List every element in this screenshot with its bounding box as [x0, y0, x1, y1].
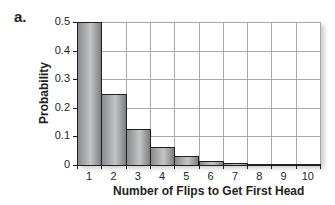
x-tick-mark [199, 165, 200, 169]
x-tick-label: 3 [126, 170, 150, 182]
y-axis [77, 22, 78, 166]
gridline-vertical [199, 22, 200, 165]
x-tick-mark [174, 165, 175, 169]
bar-3 [126, 129, 151, 165]
y-tick-label: 0 [40, 158, 70, 170]
x-tick-label: 8 [247, 170, 271, 182]
x-tick-mark [101, 165, 102, 169]
x-tick-label: 6 [199, 170, 223, 182]
y-tick-mark [73, 79, 78, 80]
y-tick-label: 0.1 [40, 129, 70, 141]
x-tick-mark [271, 165, 272, 169]
x-tick-label: 4 [150, 170, 174, 182]
bar-1 [77, 22, 102, 165]
gridline-vertical [223, 22, 224, 165]
x-tick-label: 5 [174, 170, 198, 182]
plot-area [77, 22, 320, 165]
bar-2 [101, 94, 126, 166]
x-tick-mark [296, 165, 297, 169]
x-tick-label: 9 [272, 170, 296, 182]
y-tick-mark [73, 51, 78, 52]
gridline-vertical [247, 22, 248, 165]
x-tick-mark [126, 165, 127, 169]
y-tick-label: 0.4 [40, 44, 70, 56]
y-tick-mark [73, 22, 78, 23]
x-tick-label: 1 [77, 170, 101, 182]
x-tick-mark [150, 165, 151, 169]
bar-4 [150, 147, 175, 165]
x-tick-label: 10 [296, 170, 320, 182]
gridline-vertical [271, 22, 272, 165]
y-axis-title: Probability [37, 62, 51, 124]
y-tick-mark [73, 136, 78, 137]
y-tick-mark [73, 108, 78, 109]
x-axis-title: Number of Flips to Get First Head [113, 184, 304, 198]
x-tick-mark [77, 165, 78, 169]
gridline-vertical [320, 22, 321, 165]
x-tick-mark [320, 165, 321, 169]
x-tick-label: 7 [223, 170, 247, 182]
x-tick-label: 2 [101, 170, 125, 182]
x-tick-mark [223, 165, 224, 169]
panel-label: a. [14, 8, 27, 25]
x-tick-mark [247, 165, 248, 169]
gridline-vertical [296, 22, 297, 165]
gridline-vertical [174, 22, 175, 165]
bar-5 [174, 156, 199, 165]
y-tick-label: 0.5 [40, 15, 70, 27]
